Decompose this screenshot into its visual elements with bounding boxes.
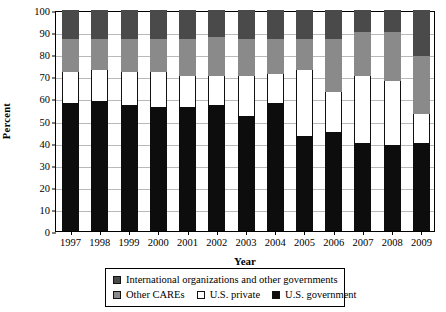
- bar-2008[interactable]: [384, 10, 401, 231]
- legend-label-us-government: U.S. government: [285, 288, 356, 301]
- legend-item-us-private[interactable]: U.S. private: [197, 288, 260, 301]
- bar-segment-2004-1: [267, 74, 284, 103]
- bar-segment-2000-1: [150, 72, 167, 107]
- legend-label-us-private: U.S. private: [210, 288, 260, 301]
- bar-segment-2000-2: [150, 39, 167, 72]
- x-tick-mark: [363, 231, 364, 235]
- bar-segment-2008-0: [384, 145, 401, 231]
- bar-segment-2007-3: [354, 10, 371, 32]
- us-private-swatch-icon: [197, 291, 205, 299]
- x-tick-label-1999: 1999: [119, 237, 140, 248]
- legend-item-other-cares[interactable]: Other CAREs: [113, 288, 185, 301]
- bar-segment-2001-1: [179, 76, 196, 107]
- bar-2003[interactable]: [238, 10, 255, 231]
- x-tick-mark: [334, 231, 335, 235]
- y-tick-label: 30: [40, 161, 51, 172]
- bar-segment-2004-2: [267, 39, 284, 74]
- x-tick-mark: [275, 231, 276, 235]
- bar-segment-2006-1: [325, 92, 342, 132]
- bar-1997[interactable]: [62, 10, 79, 231]
- bar-1999[interactable]: [121, 10, 138, 231]
- legend-item-international-organizations[interactable]: International organizations and other go…: [113, 273, 338, 286]
- bar-segment-2007-0: [354, 143, 371, 231]
- bar-2006[interactable]: [325, 10, 342, 231]
- bar-segment-1997-3: [62, 10, 79, 39]
- bar-2002[interactable]: [208, 10, 225, 231]
- bar-segment-1997-2: [62, 39, 79, 72]
- y-tick-label: 20: [40, 184, 51, 195]
- x-tick-label-2004: 2004: [265, 237, 286, 248]
- x-tick-mark: [129, 231, 130, 235]
- bar-segment-2003-0: [238, 116, 255, 231]
- bar-segment-2002-0: [208, 105, 225, 231]
- legend-label-international-organizations: International organizations and other go…: [126, 273, 338, 286]
- y-tick-label: 50: [40, 117, 51, 128]
- bar-1998[interactable]: [91, 10, 108, 231]
- plot-axes: 0102030405060708090100199719981999200020…: [55, 11, 435, 232]
- x-tick-label-2009: 2009: [411, 237, 432, 248]
- y-tick-label: 40: [40, 139, 51, 150]
- bar-segment-1998-1: [91, 70, 108, 101]
- bar-segment-1999-1: [121, 72, 138, 105]
- x-tick-label-2000: 2000: [148, 237, 169, 248]
- bar-2007[interactable]: [354, 10, 371, 231]
- bar-segment-2007-2: [354, 32, 371, 76]
- bar-segment-2009-3: [413, 10, 430, 56]
- bar-segment-2008-3: [384, 10, 401, 32]
- bars-group: [56, 12, 434, 231]
- bar-segment-2008-1: [384, 81, 401, 145]
- y-tick-mark: [52, 233, 56, 234]
- x-axis-title: Year: [234, 255, 256, 267]
- bar-segment-2002-3: [208, 10, 225, 37]
- bar-2009[interactable]: [413, 10, 430, 231]
- bar-segment-2001-2: [179, 39, 196, 77]
- bar-segment-1997-1: [62, 72, 79, 103]
- x-tick-mark: [71, 231, 72, 235]
- bar-2004[interactable]: [267, 10, 284, 231]
- x-tick-mark: [304, 231, 305, 235]
- y-tick-label: 60: [40, 95, 51, 106]
- bar-segment-2003-2: [238, 39, 255, 77]
- bar-segment-2006-3: [325, 10, 342, 39]
- bar-segment-1999-2: [121, 39, 138, 72]
- bar-segment-2005-1: [296, 70, 313, 136]
- x-tick-label-1997: 1997: [60, 237, 81, 248]
- bar-segment-2005-3: [296, 10, 313, 39]
- legend-item-us-government[interactable]: U.S. government: [272, 288, 356, 301]
- bar-segment-2007-1: [354, 76, 371, 142]
- x-tick-mark: [392, 231, 393, 235]
- y-tick-mark: [52, 100, 56, 101]
- y-tick-label: 90: [40, 29, 51, 40]
- bar-2000[interactable]: [150, 10, 167, 231]
- bar-segment-2000-3: [150, 10, 167, 39]
- bar-segment-2004-3: [267, 10, 284, 39]
- x-tick-mark: [246, 231, 247, 235]
- x-tick-label-2005: 2005: [294, 237, 315, 248]
- x-tick-mark: [421, 231, 422, 235]
- bar-segment-2000-0: [150, 107, 167, 231]
- x-tick-label-2008: 2008: [382, 237, 403, 248]
- bar-2001[interactable]: [179, 10, 196, 231]
- y-tick-label: 0: [45, 228, 50, 239]
- y-tick-mark: [52, 188, 56, 189]
- y-tick-mark: [52, 12, 56, 13]
- y-tick-mark: [52, 144, 56, 145]
- bar-segment-2009-1: [413, 114, 430, 143]
- bar-segment-2002-1: [208, 76, 225, 105]
- y-axis-title: Percent: [1, 103, 12, 139]
- y-tick-mark: [52, 166, 56, 167]
- us-government-swatch-icon: [272, 291, 280, 299]
- bar-segment-2008-2: [384, 32, 401, 81]
- y-tick-mark: [52, 56, 56, 57]
- y-tick-label: 70: [40, 73, 51, 84]
- x-tick-label-2007: 2007: [352, 237, 373, 248]
- chart-legend: International organizations and other go…: [105, 268, 345, 307]
- bar-segment-1997-0: [62, 103, 79, 231]
- bar-segment-2003-3: [238, 10, 255, 39]
- plot-area-wrapper: Percent 01020304050607080901001997199819…: [0, 0, 446, 250]
- y-tick-mark: [52, 78, 56, 79]
- bar-segment-2009-2: [413, 56, 430, 113]
- legend-label-other-cares: Other CAREs: [126, 288, 185, 301]
- y-tick-mark: [52, 34, 56, 35]
- bar-2005[interactable]: [296, 10, 313, 231]
